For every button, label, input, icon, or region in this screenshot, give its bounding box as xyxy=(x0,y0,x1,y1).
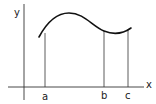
function-graph-figure: y x a b c xyxy=(0,0,156,104)
y-axis-label: y xyxy=(14,7,20,18)
marker-label-c: c xyxy=(125,90,131,101)
function-curve xyxy=(39,13,131,37)
graph-canvas: y x a b c xyxy=(0,0,156,104)
x-axis-label: x xyxy=(146,79,152,90)
marker-label-a: a xyxy=(42,91,48,102)
marker-label-b: b xyxy=(101,90,107,101)
